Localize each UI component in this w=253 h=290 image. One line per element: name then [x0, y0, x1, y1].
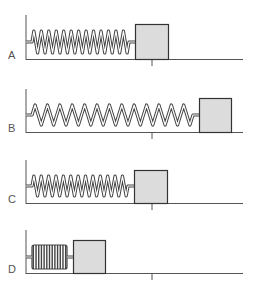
- panel-label: C: [8, 193, 16, 205]
- panel-b: B: [8, 89, 243, 139]
- diagram-canvas: ABCD: [0, 0, 253, 290]
- panel-label: B: [8, 122, 15, 134]
- panel-c: C: [8, 160, 243, 210]
- spring-compressed: [26, 245, 73, 269]
- mass-block: [136, 25, 169, 60]
- panel-label: A: [8, 49, 16, 61]
- mass-block: [200, 99, 232, 133]
- panel-a: A: [8, 15, 243, 66]
- panel-label: D: [8, 263, 16, 275]
- mass-block: [74, 241, 106, 274]
- panel-d: D: [8, 230, 243, 280]
- mass-block: [135, 171, 168, 204]
